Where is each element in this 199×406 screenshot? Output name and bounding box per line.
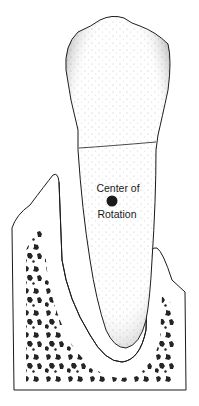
- tooth-diagram: Center of Rotation: [0, 0, 199, 406]
- label-center-of: Center of: [96, 182, 139, 194]
- center-of-rotation-dot: [107, 196, 118, 207]
- label-rotation: Rotation: [97, 208, 136, 220]
